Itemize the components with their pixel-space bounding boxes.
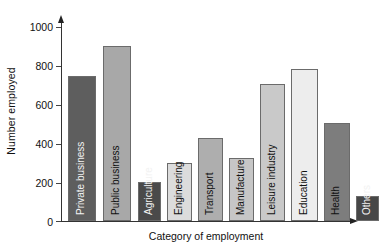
y-tick-label-1000: 1000	[21, 22, 53, 32]
y-tick-label-600: 600	[21, 100, 53, 110]
y-axis-title: Number employed	[2, 0, 20, 221]
y-tick-label-400: 400	[21, 139, 53, 149]
bar-public-business[interactable]	[103, 46, 131, 221]
bar-health[interactable]	[324, 123, 350, 221]
y-tick-label-200: 200	[21, 178, 53, 188]
x-axis-line	[61, 221, 351, 222]
y-tick-label-800: 800	[21, 61, 53, 71]
bar-agriculture[interactable]	[138, 182, 161, 221]
y-axis-title-text: Number employed	[5, 67, 17, 154]
bar-private-business[interactable]	[68, 76, 96, 222]
x-axis-title: Category of employment	[61, 230, 351, 242]
bar-engineering[interactable]	[167, 163, 192, 221]
bar-education[interactable]	[291, 69, 318, 221]
bar-transport[interactable]	[198, 138, 223, 221]
plot-area: Private businessPublic businessAgricultu…	[62, 22, 351, 221]
bar-leisure-industry[interactable]	[260, 84, 285, 221]
y-tick-label-0: 0	[21, 217, 53, 227]
bar-manufacture[interactable]	[229, 158, 254, 221]
bar-others[interactable]	[356, 196, 379, 221]
